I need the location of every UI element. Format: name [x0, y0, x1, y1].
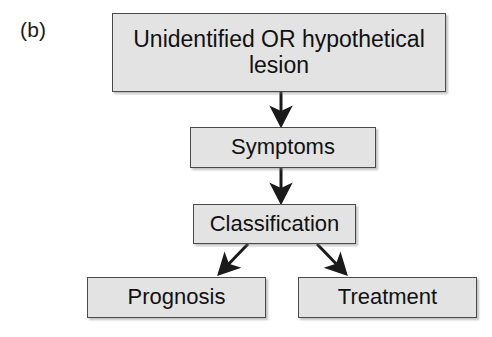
node-symptoms: Symptoms: [190, 127, 376, 168]
flowchart-figure: (b) Unidentified OR hypothetical lesion …: [0, 0, 492, 337]
node-classification: Classification: [193, 204, 356, 244]
panel-label: (b): [20, 19, 46, 40]
node-unidentified-lesion: Unidentified OR hypothetical lesion: [112, 13, 446, 92]
node-treatment: Treatment: [298, 277, 477, 318]
node-label: Treatment: [332, 285, 443, 310]
edge-classification-to-treatment: [317, 244, 345, 273]
edge-classification-to-prognosis: [220, 244, 248, 273]
node-label: Classification: [204, 212, 346, 237]
node-label: Symptoms: [225, 135, 341, 160]
node-label: Prognosis: [122, 285, 232, 310]
node-label: Unidentified OR hypothetical lesion: [127, 27, 431, 79]
node-prognosis: Prognosis: [87, 277, 266, 318]
